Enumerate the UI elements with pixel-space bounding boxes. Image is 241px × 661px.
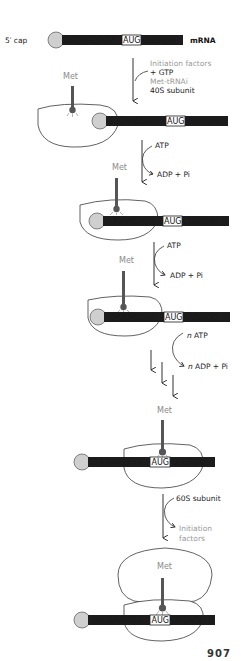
met-label: Met [63,72,78,81]
mrna-seq-left: GUCAACGGU [90,458,141,467]
reagent-met-trna: Met-tRNAi [150,77,188,86]
step2-arrow: ATP ADP + Pi [142,140,190,182]
start-codon: AUG [167,117,185,126]
step3-output: ADP + Pi [170,271,203,280]
mrna-seq-right: CUGAGU [171,458,205,467]
mrna-seq-left: GUCAACGGU [107,117,158,126]
cap-label: 5′ cap [5,36,28,45]
trna-anticodon-loop [159,448,166,455]
cap-icon [92,113,108,129]
start-codon: AUG [123,36,141,45]
trna-anticodon-loop [113,206,119,212]
cap-icon [89,213,105,229]
step5-output-line2: factors [179,534,205,543]
trna-stem [161,420,164,450]
start-codon: AUG [165,313,183,322]
mrna-seq-right: CUGAGU [142,36,176,45]
start-codon: AUG [164,217,182,226]
reagent-gtp: + GTP [150,68,174,77]
translation-initiation-diagram: 5′ cap GUCAACGGU AUG CUGAGU mRNA Initiat… [0,0,241,661]
start-codon: AUG [152,458,170,467]
mrna-seq-left: GUCAACGGU [63,36,114,45]
mrna-seq-left: GUCAACGGU [105,313,156,322]
step4-output: ADP + Pi [195,362,228,371]
step2-output: ADP + Pi [157,170,190,179]
reagent-40s: 40S subunit [150,86,195,95]
cap-icon [74,454,90,470]
stage-scanning-1: Met GUCAACGGU AUG CUGAGU [80,163,229,240]
reagent-initiation-factors: Initiation factors [150,59,211,68]
step4-output-n: n [188,362,193,371]
cap-icon [48,32,64,48]
mrna-seq-right: CUGAGU [183,217,217,226]
step3-input: ATP [167,241,181,250]
stage-48s-at-start: Met GUCAACGGU AUG CUGAGU [74,406,215,488]
step5-output-line1: Initiation [179,524,212,533]
page-number: 907 [207,648,231,659]
stage-80s-complex: Met GUCAACGGU AUG CUGAGU [74,548,215,641]
step4-arrows: n ATP n ADP + Pi [151,331,228,396]
mrna-seq-left: GUCAACGGU [90,616,141,625]
large-subunit-60s [118,548,212,604]
met-label: Met [112,163,127,172]
trna-anticodon-loop [120,304,126,310]
step4-input-n: n [187,331,192,340]
met-label: Met [157,562,172,571]
mrna-seq-right: CUGAGU [186,117,220,126]
step1-arrow: Initiation factors + GTP Met-tRNAi 40S s… [133,58,211,101]
step5-input: 60S subunit [176,494,221,503]
stage-free-mrna: 5′ cap GUCAACGGU AUG CUGAGU mRNA [5,32,216,48]
cap-icon [74,612,90,628]
trna-anticodon-loop [159,604,166,611]
mrna-label: mRNA [190,36,216,45]
cap-icon [90,309,106,325]
trna-stem [71,86,74,110]
mrna-seq-right: CUGAGU [184,313,218,322]
met-label: Met [119,256,134,265]
trna-stem [122,271,125,307]
trna-stem [115,178,118,208]
start-codon: AUG [152,616,170,625]
trna-stem [161,578,164,606]
step2-input: ATP [155,141,169,150]
mrna-seq-right: CUGAGU [171,616,205,625]
step4-input: ATP [194,331,208,340]
mrna-seq-left: GUCAACGGU [104,217,155,226]
met-label: Met [157,406,172,415]
step3-arrow: ATP ADP + Pi [154,241,203,285]
stage-scanning-2: Met GUCAACGGU AUG CUGAGU [88,256,230,336]
step5-arrow: 60S subunit Initiation factors [163,494,221,543]
trna-anticodon-loop [69,107,75,113]
